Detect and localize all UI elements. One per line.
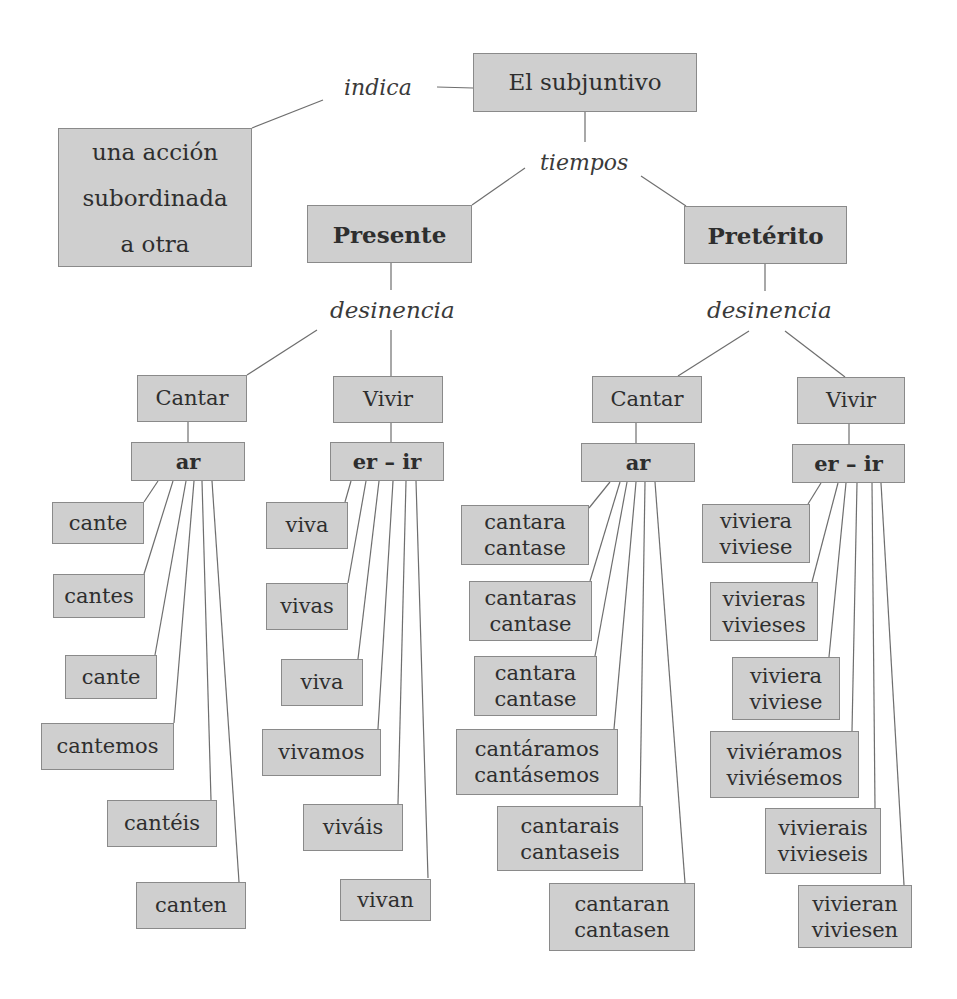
form-line: cantaras [484, 585, 576, 611]
tiempos-label: tiempos [540, 150, 628, 175]
form-line: cantara [495, 660, 576, 686]
form-line: vivieseis [778, 841, 868, 867]
preterito-vivir-form: vivieranviviesen [798, 885, 912, 948]
form-line: cantase [490, 611, 572, 637]
form-line: viviera [750, 663, 822, 689]
form-line: viviesen [812, 917, 898, 943]
form-line: vivierais [778, 815, 868, 841]
form-line: cantaseis [520, 839, 619, 865]
preterito-cantar-form: cantaracantase [474, 656, 597, 716]
form-line: cantara [484, 509, 565, 535]
presente-cantar-form: cantéis [107, 800, 217, 847]
desinencia-label-preterito: desinencia [707, 297, 832, 323]
presente-ar-ending: ar [131, 442, 245, 481]
root-node-el-subjuntivo: El subjuntivo [473, 53, 697, 112]
indica-label: indica [344, 75, 412, 100]
form-line: viviera [720, 508, 792, 534]
preterito-cantar-form: cantarancantasen [549, 883, 695, 951]
preterito-vivir-form: vivieraisvivieseis [765, 808, 881, 874]
preterito-cantar-form: cantaraiscantaseis [497, 806, 643, 871]
subordinate-line-1: una acción [92, 129, 218, 175]
form-line: vivieses [722, 612, 806, 638]
form-line: viviéramos [727, 739, 842, 765]
desinencia-label-presente: desinencia [330, 297, 455, 323]
form-line: cantarais [521, 813, 620, 839]
presente-vivir-form: viva [266, 502, 348, 549]
presente-cantar-form: cantemos [41, 723, 174, 770]
form-line: viviésemos [726, 765, 842, 791]
preterito-vivir-form: vivierasvivieses [710, 582, 818, 641]
subordinate-line-3: a otra [121, 221, 190, 267]
preterito-ar-ending: ar [581, 443, 695, 482]
form-line: cantaran [575, 891, 670, 917]
form-line: viviese [720, 534, 793, 560]
presente-vivir-form: viva [281, 659, 363, 706]
preterito-vivir-node: Vivir [797, 377, 905, 424]
presente-cantar-form: cantes [53, 574, 145, 618]
form-line: vivieran [812, 891, 898, 917]
presente-cantar-form: cante [65, 655, 157, 699]
preterito-vivir-form: viviéramosviviésemos [710, 731, 859, 798]
presente-node: Presente [307, 205, 472, 263]
presente-vivir-form: vivas [266, 583, 348, 630]
presente-vivir-node: Vivir [333, 376, 443, 423]
form-line: cantasen [574, 917, 670, 943]
subordinate-action-node: una acción subordinada a otra [58, 128, 252, 267]
presente-er-ir-ending: er – ir [330, 442, 444, 481]
presente-cantar-form: cante [52, 502, 144, 544]
subordinate-line-2: subordinada [82, 175, 227, 221]
preterito-er-ir-ending: er – ir [792, 444, 905, 483]
presente-cantar-node: Cantar [137, 375, 247, 422]
preterito-node: Pretérito [684, 206, 847, 264]
form-line: cantáramos [475, 736, 600, 762]
form-line: cantase [484, 535, 566, 561]
presente-vivir-form: viváis [303, 804, 403, 851]
preterito-cantar-form: cantarascantase [469, 581, 592, 641]
form-line: cantásemos [474, 762, 599, 788]
preterito-vivir-form: vivieraviviese [732, 657, 840, 720]
preterito-cantar-form: cantáramoscantásemos [456, 729, 618, 795]
preterito-vivir-form: vivieraviviese [702, 504, 810, 563]
preterito-cantar-form: cantaracantase [461, 505, 589, 565]
form-line: viviese [750, 689, 823, 715]
presente-cantar-form: canten [136, 882, 246, 929]
presente-vivir-form: vivamos [262, 729, 381, 776]
presente-vivir-form: vivan [340, 879, 431, 921]
preterito-cantar-node: Cantar [592, 376, 702, 423]
form-line: cantase [495, 686, 577, 712]
form-line: vivieras [723, 586, 806, 612]
